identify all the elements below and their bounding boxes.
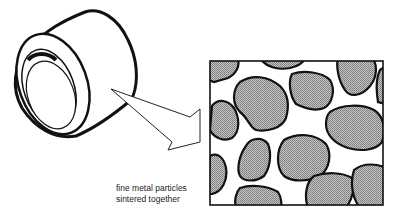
magnified-view-box [208,58,386,208]
diagram-artwork [0,0,395,220]
caption-line-1: fine metal particles [116,183,187,194]
caption-line-2: sintered together [116,194,187,205]
diagram-canvas: fine metal particles sintered together [0,0,395,220]
bushing-illustration [3,11,136,145]
magnify-arrow-icon [111,89,200,150]
caption: fine metal particles sintered together [116,183,187,205]
